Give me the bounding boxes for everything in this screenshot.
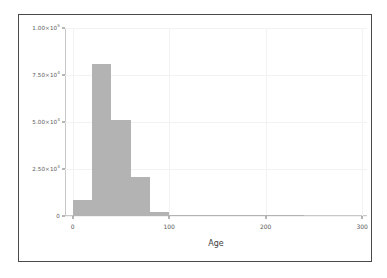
x-tick-label: 200 [260, 223, 271, 230]
x-tick-mark [72, 216, 73, 219]
histogram-bar [131, 177, 150, 216]
histogram-bar [285, 215, 304, 216]
y-tick-label: 5.00×104 [32, 119, 65, 125]
histogram-bar [246, 215, 265, 216]
gridline-h-0 [65, 216, 367, 217]
histogram-bar [266, 215, 285, 216]
x-tick-label: 0 [71, 223, 75, 230]
histogram-bar [227, 215, 246, 216]
y-tick-label: 1.00×105 [32, 25, 65, 31]
y-tick-label: 2.50×104 [32, 166, 65, 172]
plot-area: 02.50×1045.00×1047.50×1041.00×105 010020… [65, 28, 367, 216]
gridline-h-4 [65, 28, 367, 29]
histogram-bar [150, 212, 169, 216]
x-tick-label: 300 [356, 223, 367, 230]
chart-figure: 02.50×1045.00×1047.50×1041.00×105 010020… [18, 14, 372, 262]
x-tick-mark [362, 216, 363, 219]
histogram-bar [73, 200, 92, 216]
x-axis-label: Age [65, 239, 367, 248]
histogram-bar [169, 215, 188, 216]
histogram-bar [92, 64, 111, 216]
histogram-bar [189, 215, 208, 216]
x-tick-mark [265, 216, 266, 219]
y-tick-label: 7.50×104 [32, 72, 65, 78]
x-tick-label: 100 [163, 223, 174, 230]
histogram-bar [208, 215, 227, 216]
x-tick-mark [169, 216, 170, 219]
y-tick-label: 0 [56, 213, 65, 219]
histogram-bar [111, 120, 130, 216]
